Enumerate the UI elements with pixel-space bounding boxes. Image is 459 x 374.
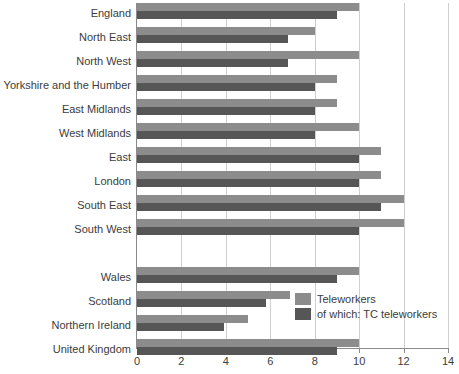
bar-row: East Midlands: [0, 99, 454, 123]
bar-tc-teleworkers: [137, 11, 337, 19]
y-axis-label: South East: [0, 199, 131, 211]
bar-teleworkers: [137, 75, 337, 83]
bar-row: Yorkshire and the Humber: [0, 75, 454, 99]
bar-row: West Midlands: [0, 123, 454, 147]
legend-swatch-teleworkers: [295, 293, 311, 305]
y-axis-label: West Midlands: [0, 127, 131, 139]
bar-tc-teleworkers: [137, 227, 359, 235]
bar-row: East: [0, 147, 454, 171]
y-axis-label: South West: [0, 223, 131, 235]
legend-swatch-tc-teleworkers: [295, 308, 311, 320]
legend-label-teleworkers: Teleworkers: [317, 293, 376, 305]
bar-row: Wales: [0, 267, 454, 291]
bar-teleworkers: [137, 195, 404, 203]
bar-tc-teleworkers: [137, 347, 337, 355]
bar-teleworkers: [137, 99, 337, 107]
bar-tc-teleworkers: [137, 203, 381, 211]
bar-row: South East: [0, 195, 454, 219]
bar-teleworkers: [137, 339, 359, 347]
bar-teleworkers: [137, 123, 359, 131]
y-axis-label: North West: [0, 55, 131, 67]
y-axis-label: United Kingdom: [0, 343, 131, 355]
bar-teleworkers: [137, 219, 404, 227]
bar-teleworkers: [137, 267, 359, 275]
bar-tc-teleworkers: [137, 107, 315, 115]
bar-row: [0, 243, 454, 267]
bar-tc-teleworkers: [137, 35, 288, 43]
bar-row: United Kingdom: [0, 339, 454, 363]
y-axis-label: Yorkshire and the Humber: [0, 79, 131, 91]
y-axis-label: North East: [0, 31, 131, 43]
bar-tc-teleworkers: [137, 323, 224, 331]
bar-teleworkers: [137, 315, 248, 323]
bar-row: South West: [0, 219, 454, 243]
y-axis-label: Northern Ireland: [0, 319, 131, 331]
bar-tc-teleworkers: [137, 299, 266, 307]
legend-item: Teleworkers: [295, 291, 437, 306]
bar-tc-teleworkers: [137, 59, 288, 67]
bar-teleworkers: [137, 147, 381, 155]
bar-row: London: [0, 171, 454, 195]
bar-teleworkers: [137, 291, 290, 299]
y-axis-label: East: [0, 151, 131, 163]
legend-item: of which: TC teleworkers: [295, 306, 437, 321]
legend: Teleworkers of which: TC teleworkers: [295, 291, 437, 321]
y-axis-label: London: [0, 175, 131, 187]
y-axis-label: Wales: [0, 271, 131, 283]
bar-row: North West: [0, 51, 454, 75]
bar-teleworkers: [137, 51, 359, 59]
legend-label-tc-teleworkers: of which: TC teleworkers: [317, 308, 437, 320]
bar-tc-teleworkers: [137, 275, 337, 283]
bar-tc-teleworkers: [137, 155, 359, 163]
bar-teleworkers: [137, 171, 381, 179]
bar-teleworkers: [137, 27, 315, 35]
y-axis-label: East Midlands: [0, 103, 131, 115]
bar-teleworkers: [137, 3, 359, 11]
y-axis-label: Scotland: [0, 295, 131, 307]
bar-row: North East: [0, 27, 454, 51]
bar-tc-teleworkers: [137, 179, 359, 187]
y-axis-label: England: [0, 7, 131, 19]
bar-tc-teleworkers: [137, 83, 315, 91]
bar-tc-teleworkers: [137, 131, 315, 139]
bar-row: England: [0, 3, 454, 27]
